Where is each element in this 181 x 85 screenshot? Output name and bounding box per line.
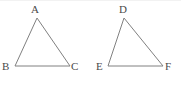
geometry-figure: A B C D E F (0, 0, 181, 85)
triangles-canvas (0, 0, 181, 85)
vertex-label-e: E (96, 61, 103, 72)
vertex-label-b: B (2, 61, 9, 72)
vertex-label-a: A (31, 4, 39, 15)
triangle-def-outline (108, 18, 163, 66)
triangle-abc-outline (15, 18, 70, 66)
vertex-label-c: C (71, 61, 78, 72)
vertex-label-f: F (165, 61, 171, 72)
vertex-label-d: D (119, 4, 127, 15)
